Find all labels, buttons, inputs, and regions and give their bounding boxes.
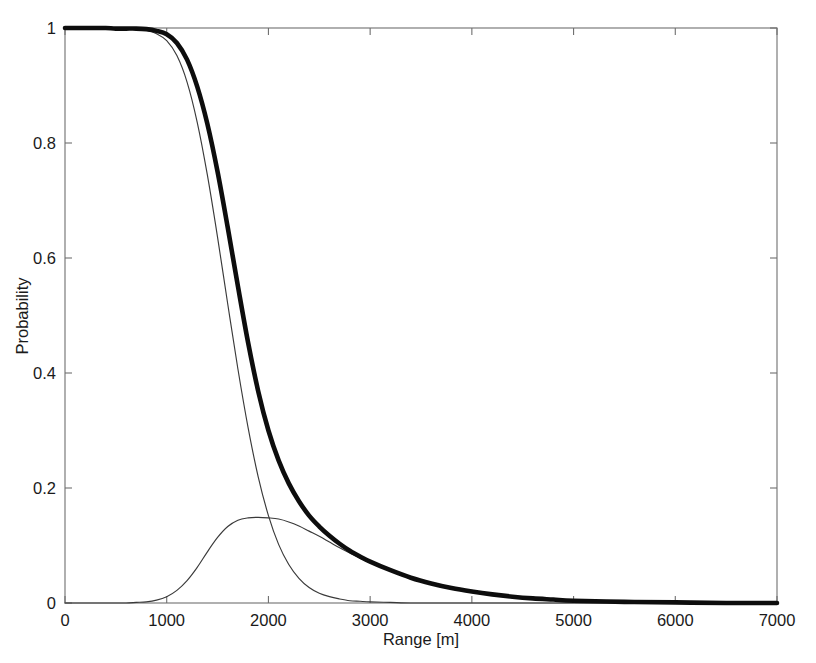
curve-total-probability <box>65 28 777 603</box>
curve-false-alarm-contribution <box>65 517 777 603</box>
x-tick-label: 6000 <box>657 611 694 629</box>
x-tick-label: 3000 <box>352 611 389 629</box>
x-tick-label: 4000 <box>453 611 490 629</box>
x-tick-label: 1000 <box>148 611 185 629</box>
y-axis-title: Probability <box>13 277 31 355</box>
y-tick-label: 0.8 <box>33 134 56 152</box>
y-tick-label: 1 <box>47 19 56 37</box>
y-tick-label: 0.6 <box>33 249 56 267</box>
y-tick-labels: 00.20.40.60.81 <box>33 19 56 612</box>
x-tick-label: 0 <box>60 611 69 629</box>
x-tick-labels: 01000200030004000500060007000 <box>60 611 795 629</box>
x-tick-label: 2000 <box>250 611 287 629</box>
x-tick-label: 5000 <box>555 611 592 629</box>
plot-canvas: 01000200030004000500060007000 00.20.40.6… <box>0 0 816 663</box>
x-axis-ticks <box>65 28 777 603</box>
chart-figure: 01000200030004000500060007000 00.20.40.6… <box>0 0 816 663</box>
data-curves <box>65 28 777 603</box>
y-tick-label: 0 <box>47 594 56 612</box>
y-axis-ticks <box>65 28 777 603</box>
x-tick-label: 7000 <box>759 611 796 629</box>
axis-frame <box>65 28 777 603</box>
x-axis-title: Range [m] <box>383 630 459 648</box>
curve-detection-probability-base <box>65 28 777 603</box>
plot-frame <box>65 28 777 603</box>
y-tick-label: 0.4 <box>33 364 56 382</box>
y-tick-label: 0.2 <box>33 479 56 497</box>
